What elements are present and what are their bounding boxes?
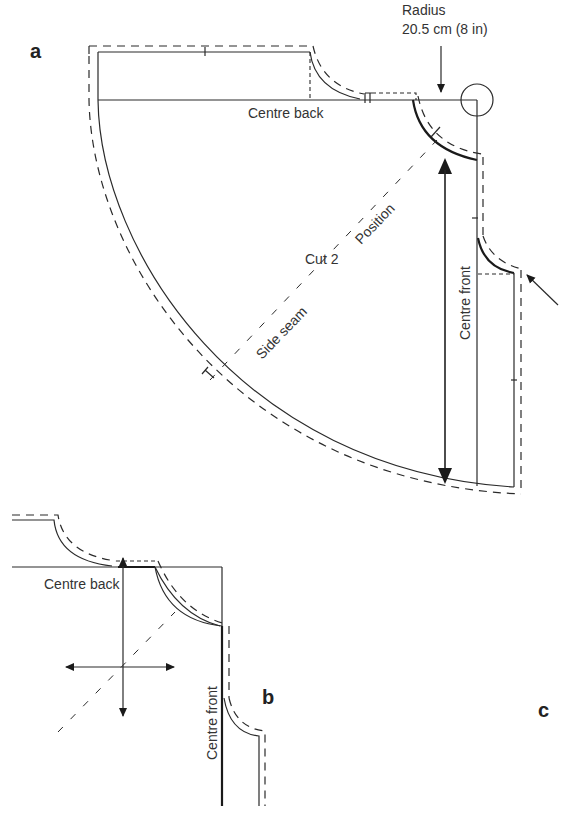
front-neck-seam — [418, 96, 482, 154]
panel-a: a Radius 20.5 cm (8 in) Centre back Cent… — [30, 2, 558, 494]
back-neck-seam — [313, 46, 364, 94]
centre-front-label-b: Centre front — [204, 686, 220, 760]
b-grain-diagonal — [58, 612, 175, 732]
front-extension-curve — [478, 238, 514, 273]
back-neck-curve — [310, 52, 360, 99]
panel-label-b: b — [262, 686, 274, 708]
centre-front-label-a: Centre front — [457, 266, 473, 340]
pointer-arrow-icon — [527, 275, 558, 305]
side-seam-label: Side seam — [253, 303, 310, 362]
centre-back-label-b: Centre back — [44, 576, 120, 592]
double-notch — [365, 93, 372, 103]
front-extension-seam — [483, 236, 522, 269]
b-back-neck-seam — [12, 515, 116, 561]
panel-label-c: c — [538, 699, 549, 721]
b-front-neck-seam — [158, 561, 226, 624]
side-seam-notch — [202, 367, 214, 378]
b-back-neck-curve — [12, 520, 112, 566]
panel-b: b Centre back Centre front — [12, 515, 274, 806]
centre-back-seam — [372, 93, 416, 100]
radius-value: 20.5 cm (8 in) — [402, 21, 488, 37]
centre-back-label-a: Centre back — [248, 105, 324, 121]
cut-label: Cut 2 — [305, 251, 339, 267]
pattern-diagram: a Radius 20.5 cm (8 in) Centre back Cent… — [0, 0, 577, 823]
position-label: Position — [352, 200, 398, 247]
panel-c: c — [538, 699, 549, 721]
front-neck-curve — [413, 100, 477, 160]
b-front-extension — [224, 698, 259, 806]
panel-label-a: a — [30, 40, 42, 62]
radius-title: Radius — [402, 2, 446, 18]
